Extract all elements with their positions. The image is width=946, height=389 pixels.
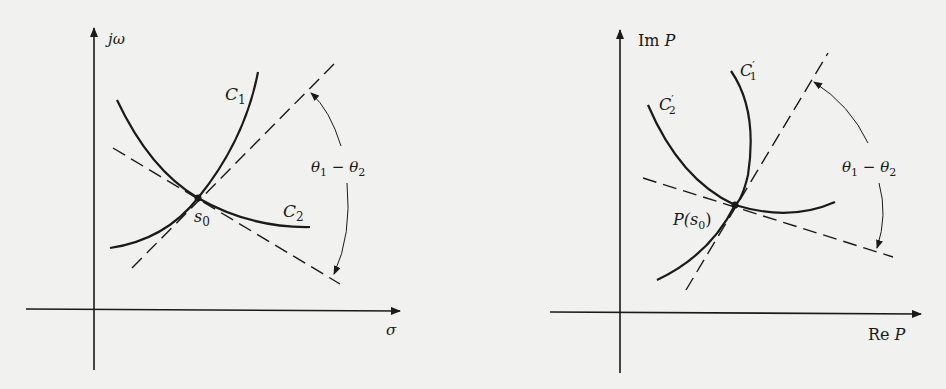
- angle-arc-lower: [334, 183, 348, 274]
- angle-arc: [814, 82, 868, 143]
- point-p-s0: [732, 202, 739, 209]
- angle-label: θ1 − θ2: [842, 158, 896, 179]
- tangent-line-c1-prime: [686, 53, 828, 290]
- p-s0-label: P(s0): [672, 210, 711, 232]
- c2-prime-label: C′2: [659, 93, 676, 117]
- angle-label: θ1 − θ2: [311, 158, 365, 179]
- re-p-axis-label: Re P: [868, 325, 906, 344]
- s-plane-diagram: jω σ C1 C2 s0 θ1 − θ2: [26, 28, 400, 370]
- im-p-axis-label: Im P: [638, 31, 676, 50]
- c1-label: C1: [225, 84, 246, 107]
- tangent-line-c2: [113, 148, 340, 284]
- s0-label: s0: [194, 207, 210, 229]
- angle-arc-lower: [877, 183, 883, 248]
- c2-label: C2: [283, 201, 304, 224]
- sigma-axis-label: σ: [386, 321, 397, 339]
- jw-axis-label: jω: [105, 30, 125, 48]
- c1-prime-label: C′1: [740, 59, 757, 83]
- p-plane-diagram: Im P Re P C′1 C′2 P(s0) θ1 − θ2: [550, 30, 921, 373]
- conformal-mapping-figure: jω σ C1 C2 s0 θ1 − θ2 Im P Re P C′1 C′2 …: [0, 0, 946, 389]
- re-p-axis: [550, 312, 921, 314]
- angle-arc: [311, 93, 341, 146]
- point-s0: [195, 195, 202, 202]
- sigma-axis: [26, 309, 400, 311]
